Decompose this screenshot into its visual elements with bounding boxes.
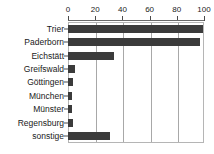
category-label: München: [29, 91, 64, 101]
bar-row: Münster: [0, 103, 214, 116]
bar-row: Paderborn: [0, 35, 214, 48]
bar-row: Eichstätt: [0, 49, 214, 62]
bar-row: Greifswald: [0, 62, 214, 75]
bar: [68, 119, 73, 127]
bar: [68, 25, 203, 33]
x-axis-tick-label: 60: [145, 5, 154, 15]
bar-rows: TrierPaderbornEichstättGreifswaldGötting…: [0, 22, 214, 143]
bar: [68, 92, 72, 100]
x-axis-tick-label: 40: [118, 5, 127, 15]
x-axis-tick-label: 100: [197, 5, 210, 15]
bar-row: München: [0, 89, 214, 102]
category-label: Greifswald: [24, 64, 64, 74]
bar: [68, 65, 75, 73]
bar-row: sonstige: [0, 130, 214, 143]
category-label: Münster: [33, 104, 64, 114]
bar: [68, 132, 110, 140]
x-axis-tick-label: 80: [172, 5, 181, 15]
bar: [68, 105, 72, 113]
category-label: Eichstätt: [31, 51, 64, 61]
x-axis-tick-label: 0: [66, 5, 70, 15]
bar: [68, 52, 114, 60]
bar-row: Regensburg: [0, 116, 214, 129]
category-label: Trier: [47, 24, 64, 34]
bar-row: Göttingen: [0, 76, 214, 89]
x-axis-line: [68, 20, 204, 21]
category-label: Göttingen: [27, 77, 64, 87]
category-label: Regensburg: [18, 118, 64, 128]
bar: [68, 78, 73, 86]
x-axis-tick-labels: 020406080100: [0, 5, 214, 16]
bar-chart: 020406080100 TrierPaderbornEichstättGrei…: [0, 0, 214, 154]
x-axis-tick-label: 20: [91, 5, 100, 15]
bar-row: Trier: [0, 22, 214, 35]
category-label: sonstige: [32, 131, 64, 141]
category-label: Paderborn: [24, 37, 64, 47]
x-axis-tick-mark: [204, 16, 205, 21]
bar: [68, 38, 200, 46]
